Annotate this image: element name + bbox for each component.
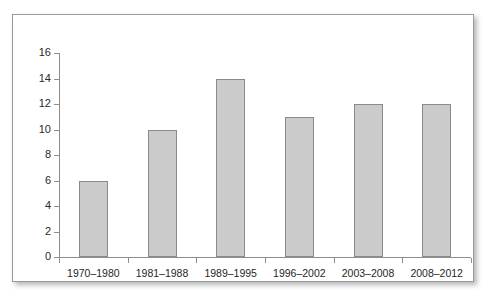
y-axis-tick-label: 2	[13, 226, 51, 237]
x-axis-category-label: 1970–1980	[59, 267, 128, 279]
x-axis-tick	[334, 258, 335, 263]
y-axis-tick-label-text: 0	[17, 251, 51, 262]
bar[interactable]	[354, 104, 383, 257]
plot-area	[59, 53, 471, 257]
x-axis-category-label: 2008–2012	[402, 267, 471, 279]
y-axis-tick-label: 14	[13, 73, 51, 84]
x-axis-tick	[196, 258, 197, 263]
y-axis-tick-label: 16	[13, 47, 51, 58]
x-axis-tick	[471, 258, 472, 263]
y-axis-tick-label-text: 4	[17, 200, 51, 211]
y-axis-tick-label-text: 16	[17, 47, 51, 58]
bar[interactable]	[148, 130, 177, 258]
y-axis-tick-label: 0	[13, 251, 51, 262]
bar[interactable]	[285, 117, 314, 257]
x-axis-category-label: 1996–2002	[265, 267, 334, 279]
y-axis-tick-label: 10	[13, 124, 51, 135]
x-axis-category-label: 1989–1995	[196, 267, 265, 279]
y-axis-tick-label-text: 10	[17, 124, 51, 135]
y-axis-tick-label: 6	[13, 175, 51, 186]
y-axis-tick-label-text: 12	[17, 98, 51, 109]
y-axis-tick-label: 4	[13, 200, 51, 211]
chart-panel: 0246810121416 1970–19801981–19881989–199…	[12, 14, 474, 282]
x-axis-tick	[59, 258, 60, 263]
x-axis-tick	[128, 258, 129, 263]
y-axis-tick-label-text: 6	[17, 175, 51, 186]
y-axis-tick-label-text: 14	[17, 73, 51, 84]
y-axis-tick-label-text: 8	[17, 149, 51, 160]
bar[interactable]	[216, 79, 245, 258]
x-axis-category-label: 1981–1988	[128, 267, 197, 279]
y-axis-tick-label: 12	[13, 98, 51, 109]
x-axis-tick	[402, 258, 403, 263]
x-axis-category-label: 2003–2008	[334, 267, 403, 279]
y-axis-tick-label-text: 2	[17, 226, 51, 237]
bar[interactable]	[422, 104, 451, 257]
y-axis-tick-label: 8	[13, 149, 51, 160]
bar[interactable]	[79, 181, 108, 258]
x-axis-tick	[265, 258, 266, 263]
